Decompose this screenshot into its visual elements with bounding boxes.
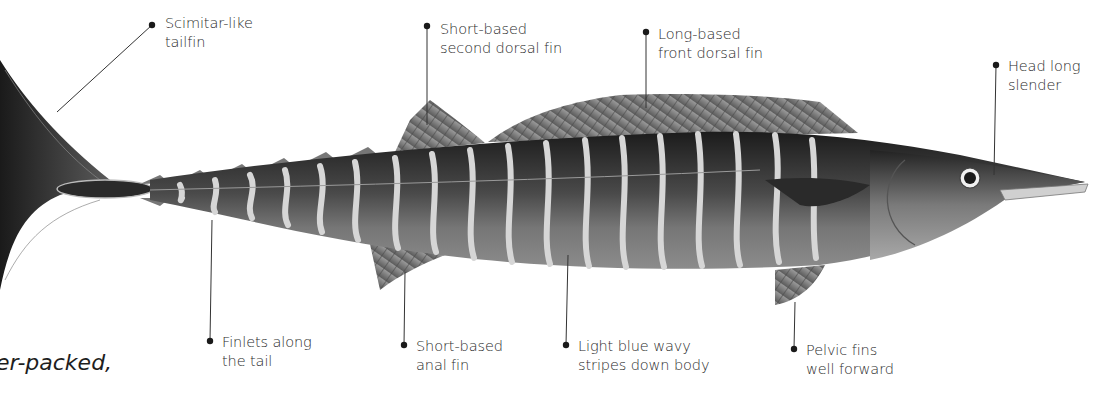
- label-line: Head long: [1008, 57, 1080, 76]
- label-tailfin: Scimitar-like tailfin: [165, 14, 253, 52]
- label-anal-fin: Short-based anal fin: [416, 337, 503, 375]
- pelvic-fin: [775, 265, 825, 305]
- label-line: front dorsal fin: [658, 44, 763, 63]
- label-line: stripes down body: [578, 356, 709, 375]
- label-finlets: Finlets along the tail: [222, 333, 312, 371]
- second-dorsal-fin: [395, 100, 485, 152]
- label-line: Short-based: [416, 337, 503, 356]
- label-line: Finlets along: [222, 333, 312, 352]
- label-front-dorsal-fin: Long-based front dorsal fin: [658, 25, 763, 63]
- label-line: second dorsal fin: [440, 39, 562, 58]
- label-stripes: Light blue wavy stripes down body: [578, 337, 709, 375]
- label-line: anal fin: [416, 356, 503, 375]
- label-head: Head long slender: [1008, 57, 1080, 95]
- label-second-dorsal-fin: Short-based second dorsal fin: [440, 20, 562, 58]
- label-line: Short-based: [440, 20, 562, 39]
- label-line: Long-based: [658, 25, 763, 44]
- label-line: the tail: [222, 352, 312, 371]
- wahoo-illustration: [0, 0, 1095, 394]
- label-line: Scimitar-like: [165, 14, 253, 33]
- label-pelvic-fins: Pelvic fins well forward: [806, 341, 894, 379]
- label-line: Light blue wavy: [578, 337, 709, 356]
- fish-head: [870, 150, 1085, 260]
- fish-diagram: Scimitar-like tailfin Short-based second…: [0, 0, 1095, 394]
- label-line: tailfin: [165, 33, 253, 52]
- label-line: well forward: [806, 360, 894, 379]
- caption-fragment: er-packed,: [0, 350, 112, 375]
- label-line: Pelvic fins: [806, 341, 894, 360]
- label-line: slender: [1008, 76, 1080, 95]
- eye-icon: [960, 168, 980, 188]
